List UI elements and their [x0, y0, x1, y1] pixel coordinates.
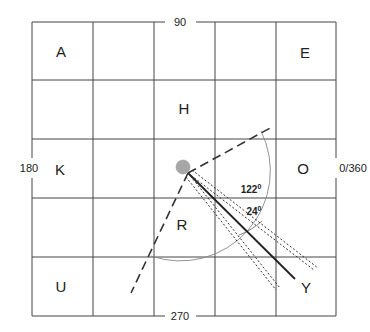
axis-label-left: 180 [20, 162, 38, 174]
angle-label-24: 240 [246, 205, 261, 217]
cell-label-y: Y [301, 279, 311, 296]
cell-label-e: E [300, 44, 310, 61]
compass-grid-diagram: 90 270 180 0/360 A E H K O R U Y 1220 24… [0, 0, 370, 332]
cell-label-k: K [55, 161, 65, 178]
center-point [176, 160, 190, 174]
cell-label-a: A [56, 43, 66, 60]
cell-label-r: R [177, 216, 188, 233]
axis-label-right: 0/360 [339, 162, 367, 174]
axis-label-bottom: 270 [171, 310, 189, 322]
axis-label-top: 90 [174, 16, 186, 28]
cell-label-u: U [56, 278, 67, 295]
angle-label-122: 1220 [241, 183, 262, 195]
cell-label-h: H [179, 100, 190, 117]
cell-label-o: O [297, 160, 309, 177]
